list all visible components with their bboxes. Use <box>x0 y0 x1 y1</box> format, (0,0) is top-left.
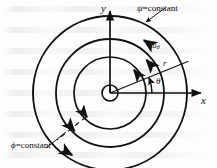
vortex-flow-diagram: y x r θ uθ ψ=constant ϕ=constant <box>0 0 217 168</box>
theta-arc-arrow <box>149 78 152 94</box>
psi-equals-constant: =constant <box>143 3 178 13</box>
theta-label: θ <box>156 77 160 86</box>
outer-flow-arrow <box>144 40 149 43</box>
x-axis-label: x <box>201 95 206 106</box>
radial-dashed-line <box>57 117 86 140</box>
velocity-subscript: θ <box>157 43 160 50</box>
phi-constant-label: ϕ=constant <box>11 141 51 150</box>
phi-equals-constant: =constant <box>16 140 51 150</box>
radius-label: r <box>163 59 167 68</box>
middle-flow-arrow <box>147 60 152 66</box>
radius-line <box>110 61 189 93</box>
psi-constant-label: ψ=constant <box>137 4 178 13</box>
velocity-label: uθ <box>152 41 160 51</box>
outer-flow-arrow-bottom <box>66 152 72 156</box>
y-axis-label: y <box>101 3 106 14</box>
